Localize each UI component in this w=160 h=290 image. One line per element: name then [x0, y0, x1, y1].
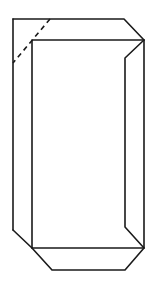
top-back-edge: [13, 19, 144, 40]
bottom-face: [32, 248, 144, 270]
front-face: [32, 40, 144, 248]
right-chamfer-face: [125, 40, 144, 248]
chamfered-prism-diagram: [0, 0, 160, 290]
lower-left-chamfer-edge: [13, 230, 32, 248]
